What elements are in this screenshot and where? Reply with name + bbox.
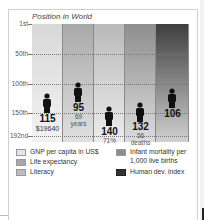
y-tick-label-1st: 1st — [4, 20, 28, 27]
detail-infant-mortality-unit: deaths — [125, 139, 156, 146]
y-tick-label-100th: 100th — [4, 80, 28, 87]
legend-item-gnp: GNP per capita in US$ — [16, 148, 99, 157]
legend-item-human-dev-index: Human dev. index — [116, 168, 184, 177]
rank-value-life-expectancy: 95 — [63, 103, 94, 113]
legend-label: Infant mortality per 1,000 live births — [130, 148, 186, 165]
legend-label: GNP per capita in US$ — [30, 148, 99, 157]
person-icon — [134, 102, 146, 122]
legend-swatch — [16, 159, 26, 166]
detail-life-expectancy-value: 69 — [63, 113, 94, 120]
legend-swatch — [116, 169, 126, 176]
column-human-dev-index — [156, 24, 189, 142]
window-edge — [200, 0, 204, 220]
detail-gnp: $19640 — [32, 125, 63, 132]
legend-item-life-expectancy: Life expectancy — [16, 158, 77, 167]
detail-literacy: 71% — [94, 137, 125, 144]
person-icon — [166, 88, 178, 108]
detail-life-expectancy-unit: years — [63, 120, 94, 127]
person-icon — [72, 82, 84, 102]
legend-item-literacy: Literacy — [16, 168, 54, 177]
legend: GNP per capita in US$ Life expectancy Li… — [14, 148, 194, 208]
legend-label-line2: 1,000 live births — [130, 157, 178, 164]
gridline-50th — [32, 54, 189, 55]
window-edge-shadow — [202, 208, 204, 220]
y-tick-label-50th: 50th — [4, 50, 28, 57]
rank-value-literacy: 140 — [94, 127, 125, 137]
rank-value-gnp: 115 — [32, 114, 63, 124]
legend-swatch — [116, 149, 126, 156]
legend-label: Human dev. index — [130, 168, 184, 177]
legend-label: Life expectancy — [30, 158, 77, 167]
legend-item-infant-mortality: Infant mortality per 1,000 live births — [116, 148, 186, 165]
legend-label-line1: Infant mortality per — [130, 148, 186, 155]
gridline-100th — [32, 84, 189, 85]
person-icon — [41, 93, 53, 113]
plot-area: 115 $19640 95 69 years 140 71% 132 56 de… — [32, 24, 189, 142]
bottom-rule — [0, 215, 8, 216]
rank-value-human-dev-index: 106 — [157, 109, 188, 119]
chart-title: Position in World — [32, 12, 92, 21]
detail-infant-mortality-value: 56 — [125, 132, 156, 139]
y-tick-label-150th: 150th — [4, 109, 28, 116]
rank-value-infant-mortality: 132 — [125, 122, 156, 132]
y-tick-label-192nd: 192nd — [4, 132, 28, 139]
legend-swatch — [16, 149, 26, 156]
legend-label: Literacy — [30, 168, 54, 177]
legend-swatch — [16, 169, 26, 176]
person-icon — [103, 106, 115, 126]
